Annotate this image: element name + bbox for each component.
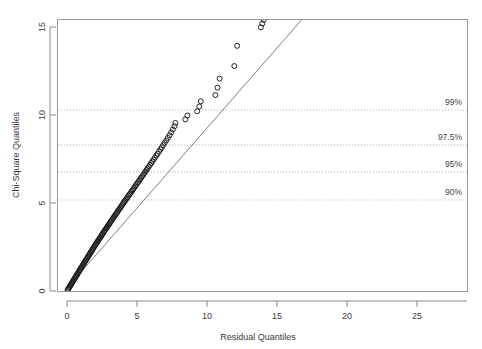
percentile-label-95: 95% <box>445 159 462 169</box>
data-point <box>197 104 202 109</box>
y-axis-title: Chi-Square Quantiles <box>11 111 21 198</box>
y-axis-ticks <box>50 27 56 291</box>
data-point <box>217 76 222 81</box>
data-point <box>215 85 220 90</box>
chart-root: 99% 97.5% 95% 90% 15 10 5 0 Chi-Square Q… <box>0 0 482 349</box>
percentile-gridlines <box>58 110 467 200</box>
data-point <box>232 64 237 69</box>
x-axis-ticks <box>67 301 417 307</box>
y-tick-label-5: 5 <box>37 200 47 205</box>
data-point <box>274 14 279 19</box>
data-point <box>447 3 452 8</box>
percentile-label-975: 97.5% <box>438 132 463 142</box>
x-tick-label-20: 20 <box>342 311 352 321</box>
plot-panel-border <box>58 20 468 292</box>
x-tick-label-15: 15 <box>272 311 282 321</box>
data-point <box>185 113 190 118</box>
y-tick-label-15: 15 <box>37 22 47 32</box>
data-point <box>213 93 218 98</box>
percentile-label-99: 99% <box>445 97 462 107</box>
data-point <box>281 10 286 15</box>
x-tick-label-5: 5 <box>134 311 139 321</box>
x-tick-label-10: 10 <box>202 311 212 321</box>
data-point <box>235 43 240 48</box>
data-points-layer <box>65 3 452 292</box>
data-point <box>173 120 178 125</box>
x-tick-label-0: 0 <box>64 311 69 321</box>
x-tick-label-25: 25 <box>412 311 422 321</box>
y-tick-label-0: 0 <box>37 288 47 293</box>
data-point <box>195 109 200 114</box>
percentile-label-90: 90% <box>445 187 462 197</box>
x-axis-title: Residual Quantiles <box>220 332 296 342</box>
data-point <box>309 7 314 12</box>
qq-plot-svg: 99% 97.5% 95% 90% 15 10 5 0 Chi-Square Q… <box>0 0 482 349</box>
data-point <box>198 99 203 104</box>
y-tick-label-10: 10 <box>37 110 47 120</box>
reference-line <box>61 8 312 295</box>
